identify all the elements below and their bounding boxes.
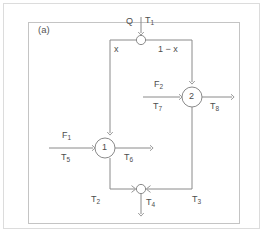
split-fraction-left-label: x xyxy=(114,45,119,54)
unit1-side-temp-index: 5 xyxy=(67,156,71,163)
split-fraction-right-label: 1 − x xyxy=(158,45,178,54)
unit2-side-flow-index: 2 xyxy=(160,83,164,90)
unit2-side-temp-index: 7 xyxy=(159,105,163,112)
unit1-out-temp-label: T6 xyxy=(124,153,133,162)
unit1-side-flow-label: F1 xyxy=(62,131,71,140)
unit2-side-temp-symbol: T xyxy=(153,101,159,111)
unit2-side-flow-label: F2 xyxy=(154,80,163,89)
feed-temp-index: 1 xyxy=(151,19,155,26)
unit-2-label: 2 xyxy=(189,92,194,101)
unit2-side-flow-symbol: F xyxy=(154,79,160,89)
figure-panel: (a) Q T1 x 1 − x 1 2 F1 T5 T6 F2 T7 T8 T… xyxy=(0,0,263,232)
mixer-out-temp-index: 4 xyxy=(152,201,156,208)
mixer-in-right-temp-symbol: T xyxy=(192,194,198,204)
unit2-out-temp-symbol: T xyxy=(210,101,216,111)
mixer-in-right-temp-label: T3 xyxy=(192,195,201,204)
mixer-out-temp-label: T4 xyxy=(146,198,155,207)
mixer-in-left-temp-symbol: T xyxy=(91,194,97,204)
node-mixer xyxy=(136,184,145,193)
unit1-out-temp-symbol: T xyxy=(124,152,130,162)
panel-label: (a) xyxy=(38,25,50,35)
feed-temp-label: T1 xyxy=(145,16,154,25)
figure-frame xyxy=(4,4,260,229)
unit1-side-temp-label: T5 xyxy=(61,153,70,162)
edge-unit2-to-mixer xyxy=(147,107,192,189)
mixer-out-temp-symbol: T xyxy=(146,197,152,207)
mixer-in-left-temp-index: 2 xyxy=(97,198,101,205)
unit2-side-temp-label: T7 xyxy=(153,102,162,111)
feed-temp-symbol: T xyxy=(145,15,151,25)
unit2-out-temp-index: 8 xyxy=(216,105,220,112)
unit1-out-temp-index: 6 xyxy=(130,156,134,163)
unit-1-label: 1 xyxy=(102,143,107,152)
mixer-in-right-temp-index: 3 xyxy=(198,198,202,205)
feed-flow-label: Q xyxy=(126,17,133,26)
node-splitter xyxy=(136,35,145,44)
unit1-side-temp-symbol: T xyxy=(61,152,67,162)
unit1-side-flow-index: 1 xyxy=(68,134,72,141)
unit1-side-flow-symbol: F xyxy=(62,130,68,140)
unit2-out-temp-label: T8 xyxy=(210,102,219,111)
mixer-in-left-temp-label: T2 xyxy=(91,195,100,204)
